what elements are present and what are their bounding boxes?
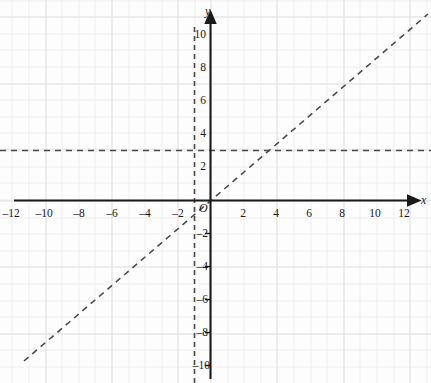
coordinate-plane-graph: –12 –10 –8 –6 –4 –2 2 4 6 8 10 12 10 8 6…	[0, 0, 431, 383]
y-tick-label: –4	[197, 261, 209, 273]
y-tick-label: 8	[200, 62, 206, 74]
y-axis-label: y	[205, 5, 210, 17]
x-tick-label: –4	[139, 208, 151, 220]
x-tick-label: 12	[398, 208, 410, 220]
y-tick-label: 4	[200, 128, 206, 140]
y-tick-label: –10	[193, 360, 210, 372]
x-axis-label: x	[421, 194, 426, 206]
y-tick-label: –8	[197, 327, 209, 339]
diagonal-line	[24, 14, 428, 361]
origin-label: O	[199, 202, 208, 214]
x-tick-label: –12	[2, 208, 19, 220]
x-tick-label: –8	[73, 208, 85, 220]
y-tick-label: –6	[197, 294, 209, 306]
y-tick-label: 2	[200, 161, 206, 173]
x-tick-label: –6	[106, 208, 118, 220]
x-tick-label: 4	[273, 208, 279, 220]
x-tick-label: 6	[306, 208, 312, 220]
x-tick-label: 10	[369, 208, 381, 220]
plot-canvas	[0, 0, 431, 383]
y-tick-label: 10	[195, 29, 207, 41]
x-tick-label: 2	[240, 208, 246, 220]
x-tick-label: –10	[35, 208, 52, 220]
y-tick-label: –2	[197, 228, 209, 240]
x-tick-label: –2	[172, 208, 184, 220]
y-tick-label: 6	[200, 95, 206, 107]
x-tick-label: 8	[339, 208, 345, 220]
